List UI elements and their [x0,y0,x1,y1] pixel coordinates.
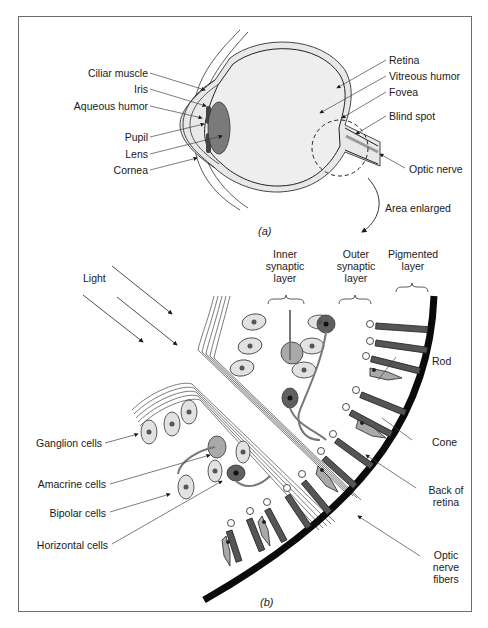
label-pigmented-layer: Pigmented layer [380,248,446,272]
optic-line-1: Optic [424,549,468,561]
label-cone: Cone [432,436,457,448]
outer-line-3: layer [331,272,381,284]
label-vitreous-humor: Vitreous humor [389,70,460,82]
label-bipolar-cells: Bipolar cells [20,507,106,519]
inner-line-1: Inner [260,248,310,260]
label-rod: Rod [432,355,451,367]
photoreceptors [222,321,428,567]
eyeball-diagram [180,30,380,232]
pigmented-line-1: Pigmented [380,248,446,260]
optic-line-3: fibers [424,573,468,585]
optic-line-2: nerve [424,561,468,573]
outer-line-1: Outer [331,248,381,260]
label-amacrine-cells: Amacrine cells [20,478,106,490]
label-optic-nerve: Optic nerve [409,163,463,175]
label-light: Light [83,272,106,284]
label-ganglion-cells: Ganglion cells [20,437,102,449]
caption-a: (a) [258,225,271,237]
back-line-1: Back of [424,484,468,496]
label-fovea: Fovea [389,86,418,98]
label-inner-synaptic-layer: Inner synaptic layer [260,248,310,284]
outer-line-2: synaptic [331,260,381,272]
label-iris: Iris [60,83,148,95]
label-optic-nerve-fibers: Optic nerve fibers [424,549,468,585]
label-area-enlarged: Area enlarged [385,202,451,214]
label-lens: Lens [60,148,148,160]
label-back-of-retina: Back of retina [424,484,468,508]
label-retina: Retina [389,54,419,66]
caption-b: (b) [260,596,273,608]
label-cornea: Cornea [60,164,148,176]
pigmented-line-2: layer [380,260,446,272]
label-horizontal-cells: Horizontal cells [20,539,108,551]
label-ciliar-muscle: Ciliar muscle [60,67,148,79]
back-line-2: retina [424,496,468,508]
label-blind-spot: Blind spot [389,110,435,122]
layer-braces [268,283,428,304]
neural-cells [141,310,335,499]
label-aqueous-humor: Aqueous humor [50,100,148,112]
label-pupil: Pupil [60,131,148,143]
inner-line-2: synaptic [260,260,310,272]
label-outer-synaptic-layer: Outer synaptic layer [331,248,381,284]
inner-line-3: layer [260,272,310,284]
